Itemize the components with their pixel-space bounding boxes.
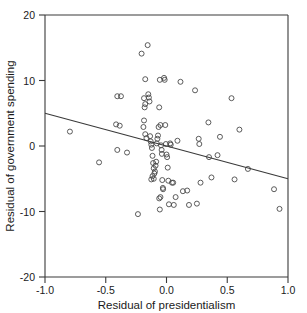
data-point	[135, 212, 140, 217]
data-point	[272, 187, 277, 192]
data-point	[197, 142, 202, 147]
x-axis-ticks	[45, 277, 288, 283]
data-point	[186, 202, 191, 207]
y-tick-label-10: 10	[23, 75, 35, 87]
x-tick-label-1: 1.0	[281, 284, 296, 296]
data-point	[166, 202, 171, 207]
data-point	[237, 127, 242, 132]
data-point	[215, 153, 220, 158]
y-tick-label-neg20: -20	[20, 271, 35, 283]
data-point	[163, 123, 168, 128]
data-point	[157, 105, 162, 110]
data-point	[118, 94, 123, 99]
data-point	[198, 180, 203, 185]
data-point	[178, 79, 183, 84]
x-tick-label-0: 0.0	[159, 284, 174, 296]
data-point	[193, 88, 198, 93]
y-tick-label-20: 20	[23, 9, 35, 21]
data-points-layer	[67, 43, 282, 217]
data-point	[142, 96, 147, 101]
data-point	[145, 43, 150, 48]
data-point	[209, 175, 214, 180]
data-point	[217, 134, 222, 139]
data-point	[139, 51, 144, 56]
data-point	[173, 195, 178, 200]
data-point	[149, 145, 154, 150]
data-point	[143, 77, 148, 82]
y-tick-labels: 20 10 0 -10 -20	[20, 9, 35, 283]
data-point	[196, 136, 201, 141]
data-point	[115, 147, 120, 152]
data-point	[165, 165, 170, 170]
data-point	[97, 160, 102, 165]
data-point	[142, 105, 147, 110]
x-axis-title: Residual of presidentialism	[98, 299, 235, 311]
data-point	[157, 207, 162, 212]
data-point	[142, 118, 147, 123]
data-point	[157, 196, 162, 201]
chart-canvas: 20 10 0 -10 -20 -1.0 -0.5 0.0 0.5 1.0 Re…	[0, 0, 307, 313]
data-point	[160, 178, 165, 183]
x-tick-label-neg05: -0.5	[97, 284, 115, 296]
data-point	[150, 153, 155, 158]
x-tick-label-05: 0.5	[220, 284, 235, 296]
data-point	[277, 206, 282, 211]
data-point	[158, 195, 163, 200]
y-tick-label-neg10: -10	[20, 206, 35, 218]
data-point	[232, 177, 237, 182]
x-tick-labels: -1.0 -0.5 0.0 0.5 1.0	[36, 284, 295, 296]
y-axis-ticks	[39, 15, 45, 277]
data-point	[194, 201, 199, 206]
scatter-plot-figure: 20 10 0 -10 -20 -1.0 -0.5 0.0 0.5 1.0 Re…	[0, 0, 307, 313]
data-point	[141, 125, 146, 130]
data-point	[67, 129, 72, 134]
data-point	[229, 96, 234, 101]
data-point	[206, 120, 211, 125]
data-point	[175, 138, 180, 143]
data-point	[125, 150, 130, 155]
x-tick-label-neg1: -1.0	[36, 284, 54, 296]
data-point	[156, 133, 161, 138]
y-axis-title: Residual of government spending	[4, 60, 16, 231]
y-tick-label-0: 0	[29, 140, 35, 152]
data-point	[171, 202, 176, 207]
